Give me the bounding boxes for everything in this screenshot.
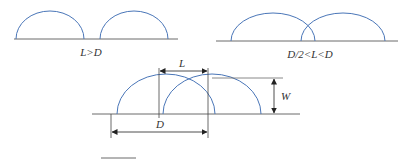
bead-arc: [231, 13, 315, 41]
label-w: W: [281, 90, 291, 102]
label-d: D: [155, 118, 164, 130]
bead-arc: [301, 13, 385, 41]
weld-bead-overlap-diagram: L>D D/2<L<D L W D: [0, 0, 408, 162]
bead-arc: [100, 11, 168, 39]
panel-dimensioned-overlap: L W D: [92, 57, 300, 138]
bead-arc: [16, 11, 84, 39]
bead-arc-first: [117, 74, 215, 114]
caption-l-greater-than-d: L>D: [79, 46, 102, 58]
bead-arc-second: [163, 74, 261, 114]
label-l: L: [178, 57, 185, 69]
caption-l-between: D/2<L<D: [286, 48, 332, 60]
panel-l-greater-than-d: L>D: [14, 11, 178, 58]
panel-l-between-half-d-and-d: D/2<L<D: [216, 13, 398, 60]
